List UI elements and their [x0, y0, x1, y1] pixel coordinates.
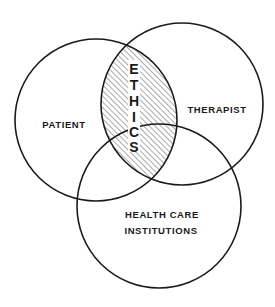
patient-label: PATIENT [42, 119, 85, 130]
venn-diagram: E T H I C S PATIENT THERAPIST HEALTH CAR… [0, 0, 275, 307]
ethics-label: E T H I C S [129, 61, 139, 155]
ethics-letter-e: E [129, 61, 138, 77]
ethics-letter-h: H [129, 93, 139, 109]
therapist-label: THERAPIST [187, 104, 246, 115]
ethics-letter-s: S [129, 139, 138, 155]
health-care-label-line2: INSTITUTIONS [124, 225, 197, 236]
ethics-letter-i: I [132, 109, 136, 125]
ethics-letter-t: T [130, 77, 139, 93]
health-care-label-line1: HEALTH CARE [125, 209, 199, 220]
ethics-letter-c: C [129, 124, 139, 140]
